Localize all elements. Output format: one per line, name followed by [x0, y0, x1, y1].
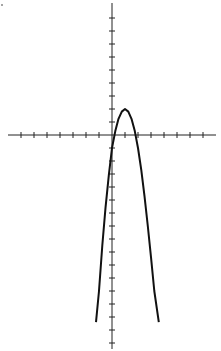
- function-graph: [0, 0, 221, 351]
- parabola-curve: [96, 109, 159, 322]
- axes: [8, 3, 216, 349]
- corner-dot: [1, 4, 3, 6]
